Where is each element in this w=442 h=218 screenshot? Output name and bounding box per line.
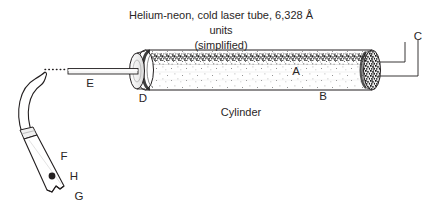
leader-lines-c (378, 40, 418, 76)
point-marker-h (49, 173, 56, 180)
label-f: F (56, 150, 72, 162)
cylinder-gas-texture (145, 50, 373, 90)
label-c: C (410, 30, 426, 42)
figure-title-line-2: (simplified) (121, 38, 321, 53)
label-h: H (66, 170, 82, 182)
label-a: A (288, 65, 304, 77)
laser-tube-figure: Helium-neon, cold laser tube, 6,328 Å un… (0, 0, 442, 218)
figure-title-line-1: Helium-neon, cold laser tube, 6,328 Å un… (121, 8, 321, 38)
figure-title: Helium-neon, cold laser tube, 6,328 Å un… (121, 8, 321, 53)
label-d: D (135, 92, 151, 104)
right-electrode-cap (361, 50, 381, 90)
rod-e (68, 69, 138, 75)
wand-assembly (19, 72, 64, 192)
label-g: G (71, 190, 87, 202)
label-e: E (82, 77, 98, 89)
cylinder-body (130, 50, 381, 90)
wand-gooseneck (19, 72, 47, 133)
label-b: B (315, 90, 331, 102)
figure-caption-cylinder: Cylinder (181, 106, 301, 118)
wand-handle (24, 135, 64, 192)
